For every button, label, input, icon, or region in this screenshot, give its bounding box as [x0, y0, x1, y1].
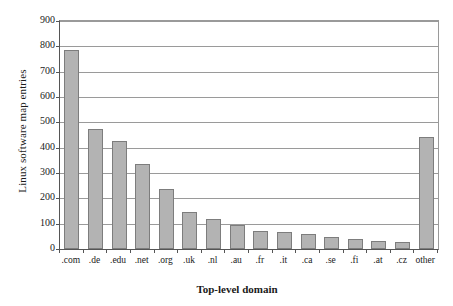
x-tick-label: .uk — [177, 255, 201, 266]
y-tick-label: 700 — [29, 66, 55, 76]
x-tick-label: .net — [130, 255, 154, 266]
bar — [253, 231, 268, 249]
y-tick-label: 200 — [29, 192, 55, 202]
x-tick-label: .at — [366, 255, 390, 266]
bar — [348, 239, 363, 249]
bar — [395, 242, 410, 249]
y-tick-label: 600 — [29, 91, 55, 101]
y-axis-tick-labels: 9008007006005004003002001000 — [29, 0, 55, 306]
x-tick-mark — [343, 249, 344, 253]
x-tick-mark — [248, 249, 249, 253]
x-tick-label: .com — [59, 255, 83, 266]
x-tick-mark — [390, 249, 391, 253]
x-tick-label: .de — [83, 255, 107, 266]
x-tick-mark — [154, 249, 155, 253]
y-tick-label: 900 — [29, 15, 55, 25]
x-tick-mark — [272, 249, 273, 253]
bar — [419, 137, 434, 249]
bar — [371, 241, 386, 249]
y-tick-label: 100 — [29, 218, 55, 228]
bar — [324, 237, 339, 249]
y-axis-title: Linux software map entries — [16, 31, 28, 231]
x-tick-mark — [319, 249, 320, 253]
x-tick-mark — [224, 249, 225, 253]
y-tick-label: 800 — [29, 40, 55, 50]
y-tick-label: 300 — [29, 167, 55, 177]
x-tick-label: .se — [319, 255, 343, 266]
x-tick-mark — [413, 249, 414, 253]
x-tick-label: .cz — [390, 255, 414, 266]
bar — [88, 129, 103, 249]
x-tick-mark — [59, 249, 60, 253]
x-tick-label: .nl — [201, 255, 225, 266]
x-tick-label: .edu — [106, 255, 130, 266]
x-tick-label: .au — [224, 255, 248, 266]
plot-area — [59, 20, 439, 250]
x-tick-mark — [366, 249, 367, 253]
x-tick-label: .fr — [248, 255, 272, 266]
bar — [112, 141, 127, 249]
bar — [277, 232, 292, 249]
bar-chart: Linux software map entries 9008007006005… — [0, 0, 453, 306]
x-tick-mark — [201, 249, 202, 253]
x-tick-label: .ca — [295, 255, 319, 266]
x-tick-label: other — [413, 255, 437, 266]
bar — [135, 164, 150, 249]
x-tick-label: .it — [272, 255, 296, 266]
x-tick-mark — [83, 249, 84, 253]
bar — [182, 212, 197, 249]
bar — [230, 225, 245, 249]
x-tick-mark — [130, 249, 131, 253]
x-axis-title: Top-level domain — [37, 283, 437, 295]
bar — [206, 219, 221, 249]
bar — [159, 189, 174, 249]
bar — [301, 234, 316, 249]
x-tick-mark — [437, 249, 438, 253]
x-tick-label: .fi — [343, 255, 367, 266]
y-tick-label: 400 — [29, 142, 55, 152]
x-tick-mark — [177, 249, 178, 253]
y-tick-label: 500 — [29, 116, 55, 126]
plot-inner — [60, 21, 438, 249]
y-tick-label: 0 — [29, 243, 55, 253]
x-tick-mark — [106, 249, 107, 253]
x-tick-mark — [295, 249, 296, 253]
x-tick-label: .org — [154, 255, 178, 266]
bar — [64, 50, 79, 249]
bar-series — [60, 21, 438, 249]
